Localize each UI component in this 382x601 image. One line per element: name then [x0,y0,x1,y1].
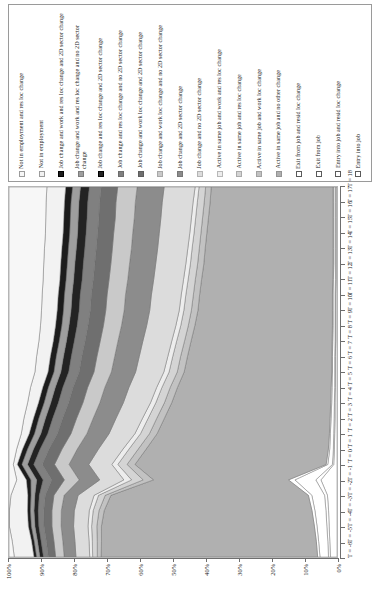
legend-item[interactable]: Not in employment [32,7,52,177]
legend-item-label: Job change and work and res loc change a… [74,13,88,169]
x-tick-label: T = 12 [346,263,353,280]
x-tick-label: T = 16 [346,201,353,218]
legend-swatch [355,171,361,177]
legend-swatch [217,171,223,177]
x-axis: T = -6T = -5T = -4T = -3T = -2T = -1T = … [340,186,382,558]
legend-item-label: Entry into job [355,134,362,169]
y-tick-label: 0% [335,564,342,573]
legend-item-label: Job change and no 2D sector change [196,78,203,169]
legend-item[interactable]: Active in same job and work and res loc … [210,7,230,177]
legend-item[interactable]: Job change and work loc change and no 2D… [150,7,170,177]
y-tick [272,558,273,562]
x-tick [340,310,345,311]
x-tick-label: T = 0 [346,449,353,463]
legend-swatch [236,171,242,177]
x-tick [340,248,345,249]
y-tick-label: 20% [269,564,276,576]
legend-swatch [98,171,104,177]
x-tick-label: T = 15 [346,217,353,234]
legend-item-label: Job change and work loc change and 2D se… [137,32,144,168]
legend-item-label: Exit from job and resid loc change [295,83,302,169]
x-tick-label: T = -1 [346,465,353,481]
x-tick [340,558,345,559]
y-tick-label: 80% [71,564,78,576]
x-tick [340,295,345,296]
x-tick-label: T = -2 [346,480,353,496]
x-tick [340,512,345,513]
legend-item-label: Job change and work loc change and no 2D… [157,25,164,169]
legend-item-label: Not in employment [38,120,45,168]
x-tick-label: T = 11 [346,279,353,296]
legend-swatch [118,171,124,177]
legend-item-label: Job change and res loc change and 2D sec… [97,38,104,169]
x-tick-label: T = 2 [346,418,353,432]
legend-item[interactable]: Job change and no 2D sector change [190,7,210,177]
y-tick [338,558,339,562]
chart-page: Not in employment and res loc changeNot … [0,0,382,601]
legend-item-label: Exit from job [315,135,322,168]
x-tick [340,434,345,435]
x-tick [340,388,345,389]
x-tick-label: T = 7 [346,341,353,355]
y-tick [206,558,207,562]
y-tick-label: 50% [170,564,177,576]
legend-item[interactable]: Job change and 2D sector change [170,7,190,177]
legend-item-label: Job change and work and res loc change a… [58,13,65,168]
legend-item[interactable]: Active in same job and res loc change [230,7,250,177]
x-tick-label: T = 18 [346,170,353,187]
x-tick-label: T = 9 [346,310,353,324]
legend-item[interactable]: Job change and work and res loc change a… [71,7,91,177]
legend-item[interactable]: Job change and res loc change and no 2D … [111,7,131,177]
legend-item[interactable]: Exit from job and resid loc change [289,7,309,177]
x-tick [340,481,345,482]
x-tick-label: T = -4 [346,511,353,527]
x-tick-label: T = 6 [346,356,353,370]
legend-item[interactable]: Active in same job and work loc change [249,7,269,177]
x-tick [340,326,345,327]
y-tick-label: 100% [5,564,12,579]
legend-swatch [316,171,322,177]
y-tick-label: 10% [302,564,309,576]
legend-swatch [157,171,163,177]
x-tick-label: T = 14 [346,232,353,249]
legend-item-label: Active in same job and no other change [275,70,282,169]
x-tick-label: T = -5 [346,527,353,543]
stacked-area-svg [9,187,337,557]
y-tick-label: 70% [104,564,111,576]
x-tick [340,186,345,187]
legend-item[interactable]: Active in same job and no other change [269,7,289,177]
legend-item-label: Job change and res loc change and no 2D … [117,30,124,168]
legend-swatch [197,171,203,177]
legend-item[interactable]: Entry into job and resid loc change [329,7,349,177]
legend-swatch [177,171,183,177]
x-tick [340,496,345,497]
y-tick-label: 60% [137,564,144,576]
x-tick [340,217,345,218]
legend-item-label: Active in same job and work and res loc … [216,49,223,168]
x-tick-label: T = -3 [346,496,353,512]
x-tick-label: T = 17 [346,186,353,203]
legend-item[interactable]: Exit from job [309,7,329,177]
y-tick-label: 40% [203,564,210,576]
legend-item[interactable]: Job change and work loc change and 2D se… [131,7,151,177]
x-tick [340,279,345,280]
legend-swatch [138,171,144,177]
legend-swatch [19,171,25,177]
legend-item[interactable]: Job change and res loc change and 2D sec… [91,7,111,177]
x-tick [340,465,345,466]
y-tick-label: 30% [236,564,243,576]
y-tick [41,558,42,562]
y-tick [173,558,174,562]
x-tick [340,264,345,265]
x-tick [340,372,345,373]
legend-swatch [58,171,64,177]
legend-item[interactable]: Job change and work and res loc change a… [52,7,72,177]
y-tick [107,558,108,562]
y-tick [305,558,306,562]
legend-item-label: Active in same job and work loc change [256,69,263,169]
legend-item[interactable]: Entry into job [348,7,368,177]
legend-swatch [276,171,282,177]
legend-item[interactable]: Not in employment and res loc change [12,7,32,177]
chart-legend: Not in employment and res loc changeNot … [8,4,372,182]
y-tick [239,558,240,562]
